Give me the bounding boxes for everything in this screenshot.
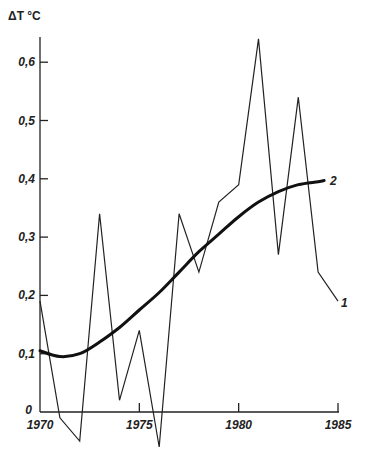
x-tick-label: 1975	[126, 418, 153, 432]
y-tick-label: 0,5	[18, 114, 35, 128]
y-tick-label: 0	[25, 403, 32, 417]
y-tick-label: 0,2	[18, 288, 35, 302]
y-tick-label: 0,1	[18, 347, 35, 361]
x-ticks: 1970197519801985	[27, 403, 352, 432]
temperature-anomaly-chart: ΔT °C 00,10,20,30,40,50,6 19701975198019…	[0, 0, 365, 457]
series-2-smoothed-line	[40, 181, 324, 357]
series-2-label: 2	[329, 174, 337, 188]
x-tick-label: 1980	[225, 418, 252, 432]
series-1-label: 1	[341, 296, 348, 310]
y-ticks: 00,10,20,30,40,50,6	[18, 55, 48, 417]
x-tick-label: 1970	[27, 418, 54, 432]
y-axis-label: ΔT °C	[8, 9, 41, 23]
y-tick-label: 0,4	[18, 172, 35, 186]
x-tick-label: 1985	[325, 418, 352, 432]
y-tick-label: 0,3	[18, 230, 35, 244]
series-1-line	[40, 39, 338, 447]
y-tick-label: 0,6	[18, 55, 35, 69]
